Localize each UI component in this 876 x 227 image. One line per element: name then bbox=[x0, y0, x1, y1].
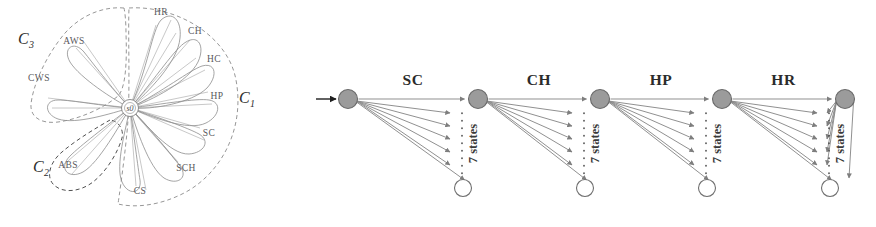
chain-edge-branch-3-2 bbox=[731, 101, 818, 126]
chain-node-open-4[interactable] bbox=[822, 180, 839, 197]
transition-label-hr: HR bbox=[771, 71, 796, 88]
petal-aws bbox=[67, 46, 130, 108]
petal-label-ch: CH bbox=[188, 26, 202, 36]
spoke-abs2 bbox=[72, 108, 130, 174]
petal-sch bbox=[130, 108, 183, 181]
petal-sc bbox=[130, 108, 205, 154]
spoke-ch2 bbox=[130, 33, 176, 108]
cluster-outline-c3 bbox=[31, 8, 126, 123]
chain-node-1[interactable] bbox=[469, 90, 488, 109]
cluster-sub-c3: 3 bbox=[28, 39, 34, 50]
petal-label-aws: AWS bbox=[63, 36, 85, 46]
hub-label: s0 bbox=[126, 104, 133, 113]
petal-label-hp: HP bbox=[211, 91, 224, 101]
chain-node-open-3[interactable] bbox=[699, 180, 716, 197]
cluster-label-c2: C bbox=[33, 158, 44, 175]
petal-label-abs: ABS bbox=[58, 160, 78, 170]
petal-label-cs: CS bbox=[134, 186, 146, 196]
petal-label-sc: SC bbox=[203, 128, 215, 138]
chain-node-4[interactable] bbox=[836, 90, 855, 109]
hub-node: s0 bbox=[122, 100, 139, 117]
chain-layer: SC7 statesCH7 statesHP7 statesHR7 states bbox=[339, 71, 855, 197]
petal-label-sch: SCH bbox=[176, 163, 196, 173]
chain-edge-branch-last-2 bbox=[609, 102, 709, 180]
chain-node-3[interactable] bbox=[713, 90, 732, 109]
chain-node-0[interactable] bbox=[339, 90, 358, 109]
chain-edge-branch-last-3 bbox=[731, 102, 832, 180]
spoke-cs bbox=[130, 108, 146, 190]
left-panel-flower-diagram: s0 HR CH HC HP SC SCH CS ABS CWS AWS C 1… bbox=[0, 0, 300, 227]
chain-node-open-1[interactable] bbox=[455, 180, 472, 197]
cluster-sub-c1: 1 bbox=[250, 98, 255, 109]
transition-label-ch: CH bbox=[527, 71, 551, 88]
states-count-label-1: 7 states bbox=[466, 124, 480, 163]
cluster-sub-c2: 2 bbox=[44, 167, 49, 178]
chain-edge-branch-2-2 bbox=[609, 101, 695, 126]
cluster-outline-c2 bbox=[50, 120, 123, 191]
cluster-label-c1: C bbox=[239, 89, 250, 106]
chain-svg: SC7 statesCH7 statesHP7 statesHR7 states bbox=[300, 0, 876, 227]
chain-edge-branch-0-4 bbox=[357, 101, 451, 152]
petal-label-hc: HC bbox=[207, 54, 221, 64]
flower-svg: s0 HR CH HC HP SC SCH CS ABS CWS AWS C 1… bbox=[0, 0, 300, 227]
chain-edge-branch-last-4 bbox=[849, 102, 854, 178]
chain-node-2[interactable] bbox=[591, 90, 610, 109]
right-panel-chain-diagram: SC7 statesCH7 statesHP7 statesHR7 states bbox=[300, 0, 876, 227]
chain-edge-branch-1-4 bbox=[487, 101, 573, 152]
chain-edge-branch-2-4 bbox=[609, 101, 695, 152]
states-count-label-4: 7 states bbox=[833, 124, 847, 163]
spoke-aws2 bbox=[84, 42, 130, 108]
spoke-sc2 bbox=[130, 108, 200, 128]
petal-label-cws: CWS bbox=[28, 73, 50, 83]
petal-label-hr: HR bbox=[154, 7, 168, 17]
figure-root: s0 HR CH HC HP SC SCH CS ABS CWS AWS C 1… bbox=[0, 0, 876, 227]
chain-edge-branch-1-2 bbox=[487, 101, 573, 126]
chain-node-open-2[interactable] bbox=[577, 180, 594, 197]
chain-edge-branch-0-2 bbox=[357, 101, 451, 126]
cluster-label-c3: C bbox=[18, 30, 29, 47]
states-count-label-2: 7 states bbox=[588, 124, 602, 163]
chain-edge-branch-last-1 bbox=[487, 102, 587, 180]
chain-edge-branch-3-4 bbox=[731, 101, 818, 152]
transition-label-hp: HP bbox=[650, 71, 673, 88]
spoke-abs bbox=[62, 108, 130, 166]
chain-edge-branch-last-0 bbox=[357, 102, 465, 180]
states-count-label-3: 7 states bbox=[710, 124, 724, 163]
transition-label-sc: SC bbox=[402, 71, 423, 88]
